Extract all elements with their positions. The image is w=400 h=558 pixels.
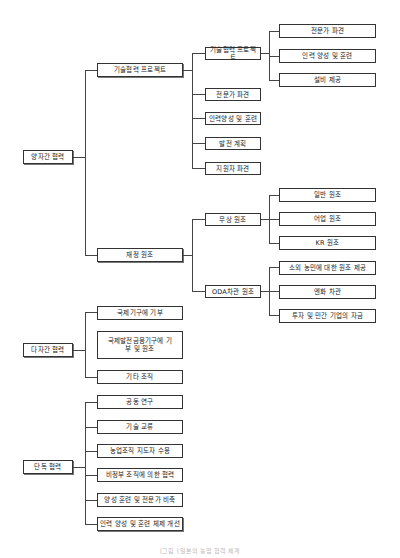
node-agri-leader-acceptance: 농업조직 지도자 수용 xyxy=(97,444,183,458)
node-development-plan: 발전 계획 xyxy=(205,137,261,150)
connector xyxy=(269,267,279,268)
node-equipment-provision: 설비 제공 xyxy=(279,73,376,87)
connector xyxy=(192,94,205,95)
connector xyxy=(85,377,97,378)
connector xyxy=(192,219,193,292)
connector xyxy=(85,70,86,256)
node-human-resource-training: 인력 양성 및 훈련 xyxy=(279,49,376,63)
connector xyxy=(73,350,85,351)
node-training-system-improvement: 인력 양성 및 훈련 체제 개선 xyxy=(97,517,183,531)
node-expert-dispatch: 전문가 파견 xyxy=(205,88,261,101)
node-kr-grant: KR 원조 xyxy=(279,236,376,250)
node-grant-aid: 무상 원조 xyxy=(205,213,261,226)
connector xyxy=(261,219,269,220)
connector xyxy=(85,70,97,71)
connector xyxy=(85,255,97,256)
connector xyxy=(85,402,97,403)
connector xyxy=(85,402,86,525)
connector xyxy=(269,243,279,244)
connector xyxy=(192,219,205,220)
node-intl-dev-finance-donation: 국제발전금융기구에 기부 및 원조 xyxy=(97,331,183,359)
node-aid-to-marginal-farmers: 소외 농민에 대한 원조 제공 xyxy=(279,261,376,275)
node-volunteer-dispatch: 지원자 파견 xyxy=(205,162,261,175)
connector xyxy=(85,524,97,525)
connector xyxy=(269,80,279,81)
connector xyxy=(85,475,97,476)
node-ngo-cooperation: 비정부 조직에 의한 협력 xyxy=(97,468,183,482)
node-investment-private-funds: 투자 및 민간 기업의 자금 xyxy=(279,309,376,323)
connector xyxy=(192,53,193,169)
node-independent-cooperation: 단독 협력 xyxy=(23,460,73,474)
connector xyxy=(183,70,192,71)
connector xyxy=(261,291,269,292)
connector xyxy=(269,56,279,57)
connector xyxy=(261,53,269,54)
connector xyxy=(269,195,279,196)
node-training-expert-reserve: 양성 훈련 및 전문가 비축 xyxy=(97,493,183,507)
connector xyxy=(192,143,205,144)
node-technology-exchange: 기술 교류 xyxy=(97,420,183,434)
node-tech-cooperation-project: 기술협력 프로젝트 xyxy=(97,63,183,77)
node-joint-research: 공동 연구 xyxy=(97,395,183,409)
node-bilateral-cooperation: 양자간 협력 xyxy=(23,150,73,164)
connector xyxy=(192,53,205,54)
node-general-grant: 일반 원조 xyxy=(279,188,376,202)
connector xyxy=(85,451,97,452)
node-yen-loan: 엔화 차관 xyxy=(279,285,376,299)
node-oda-loan: ODA차관 원조 xyxy=(205,285,261,298)
connector xyxy=(73,467,85,468)
connector xyxy=(73,157,85,158)
figure-caption: [그림 ] 일본의 농업 협력 체계 xyxy=(0,546,400,555)
node-tech-cooperation-project-sub: 기술협력 프로젝트 xyxy=(205,47,261,60)
connector xyxy=(85,312,97,313)
connector xyxy=(85,427,97,428)
connector xyxy=(183,255,192,256)
connector xyxy=(192,291,205,292)
connector xyxy=(192,168,205,169)
connector xyxy=(269,219,279,220)
connector xyxy=(269,291,279,292)
node-other-organizations: 기타 조직 xyxy=(97,370,183,384)
node-financial-aid: 재정 원조 xyxy=(97,248,183,262)
connector xyxy=(269,31,279,32)
node-expert-dispatch-2: 전문가 파견 xyxy=(279,24,376,38)
node-training: 인력양성 및 훈련 xyxy=(205,112,261,125)
node-intl-org-donation: 국제기구에 기부 xyxy=(97,306,183,320)
node-multilateral-cooperation: 다자간 협력 xyxy=(23,343,73,357)
node-fisheries-grant: 어업 원조 xyxy=(279,212,376,226)
connector xyxy=(269,315,279,316)
connector xyxy=(85,500,97,501)
connector xyxy=(85,312,86,378)
connector xyxy=(192,118,205,119)
